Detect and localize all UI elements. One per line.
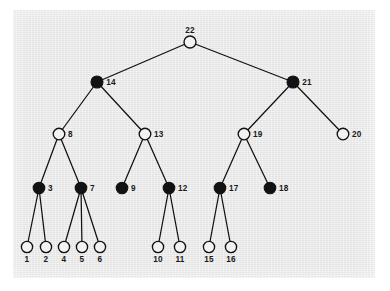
- tree-node-2[interactable]: [40, 241, 51, 252]
- tree-node-3[interactable]: [33, 182, 45, 194]
- tree-node-16[interactable]: [225, 241, 236, 252]
- tree-edge-3-2: [39, 188, 46, 247]
- tree-edge-13-12: [145, 134, 169, 188]
- tree-node-label-11: 11: [175, 255, 184, 264]
- tree-node-label-20: 20: [352, 130, 362, 139]
- tree-node-6[interactable]: [94, 241, 105, 252]
- tree-edge-3-1: [27, 188, 39, 247]
- tree-node-label-10: 10: [153, 255, 163, 264]
- tree-edge-17-15: [209, 188, 220, 247]
- tree-node-4[interactable]: [58, 241, 69, 252]
- tree-edge-21-19: [244, 82, 293, 134]
- tree-node-label-22: 22: [185, 26, 195, 35]
- tree-node-label-4: 4: [62, 255, 67, 264]
- tree-edge-8-3: [39, 134, 59, 188]
- tree-node-8[interactable]: [53, 128, 65, 140]
- tree-node-1[interactable]: [21, 241, 32, 252]
- tree-node-18[interactable]: [264, 182, 276, 194]
- tree-edge-12-11: [169, 188, 180, 247]
- tree-edge-7-4: [64, 188, 81, 247]
- tree-node-label-17: 17: [229, 184, 239, 193]
- tree-node-20[interactable]: [337, 128, 349, 140]
- tree-edge-17-16: [220, 188, 231, 247]
- tree-node-label-8: 8: [68, 130, 73, 139]
- tree-node-label-21: 21: [302, 78, 312, 87]
- tree-edge-13-9: [122, 134, 145, 188]
- tree-node-label-6: 6: [98, 255, 103, 264]
- tree-node-17[interactable]: [214, 182, 226, 194]
- tree-node-21[interactable]: [287, 76, 299, 88]
- tree-node-11[interactable]: [174, 241, 185, 252]
- tree-node-7[interactable]: [75, 182, 87, 194]
- tree-node-15[interactable]: [203, 241, 214, 252]
- tree-node-label-13: 13: [154, 130, 164, 139]
- tree-node-label-18: 18: [279, 184, 289, 193]
- tree-node-label-16: 16: [226, 255, 236, 264]
- tree-node-14[interactable]: [91, 76, 103, 88]
- tree-node-9[interactable]: [116, 182, 128, 194]
- tree-edge-19-17: [220, 134, 244, 188]
- tree-node-label-12: 12: [178, 184, 188, 193]
- tree-edge-8-7: [59, 134, 81, 188]
- figure-root: 12345678910111213141516171819202122: [0, 0, 390, 291]
- tree-node-10[interactable]: [152, 241, 163, 252]
- tree-edge-7-5: [81, 188, 82, 247]
- tree-diagram: 12345678910111213141516171819202122: [0, 0, 390, 291]
- tree-node-label-9: 9: [131, 184, 136, 193]
- tree-node-label-19: 19: [253, 130, 263, 139]
- tree-node-label-5: 5: [80, 255, 85, 264]
- tree-node-5[interactable]: [76, 241, 87, 252]
- tree-node-label-15: 15: [204, 255, 214, 264]
- tree-node-19[interactable]: [238, 128, 250, 140]
- tree-edge-22-21: [190, 42, 293, 82]
- label-layer: 12345678910111213141516171819202122: [25, 26, 362, 265]
- tree-edge-21-20: [293, 82, 343, 134]
- tree-edge-12-10: [158, 188, 169, 247]
- tree-edge-14-8: [59, 82, 97, 134]
- tree-node-label-14: 14: [106, 78, 116, 87]
- tree-node-label-7: 7: [90, 184, 95, 193]
- tree-node-label-3: 3: [48, 184, 53, 193]
- tree-node-label-2: 2: [44, 255, 49, 264]
- tree-edge-19-18: [244, 134, 270, 188]
- tree-node-label-1: 1: [25, 255, 30, 264]
- tree-node-12[interactable]: [163, 182, 175, 194]
- tree-edge-14-13: [97, 82, 145, 134]
- tree-node-22[interactable]: [184, 36, 196, 48]
- tree-edge-7-6: [81, 188, 100, 247]
- node-layer: [21, 36, 348, 253]
- tree-node-13[interactable]: [139, 128, 151, 140]
- tree-edge-22-14: [97, 42, 190, 82]
- edge-layer: [27, 42, 343, 247]
